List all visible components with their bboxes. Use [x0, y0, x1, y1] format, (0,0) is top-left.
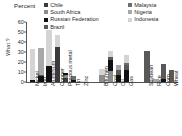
legend-label: Chile — [50, 2, 63, 9]
x-tick-label: Soybean — [148, 65, 154, 86]
y-tick-mark — [24, 62, 26, 63]
legend-swatch-icon — [44, 10, 48, 14]
legend-swatch-icon — [128, 10, 132, 14]
x-tick-label: Tin — [75, 79, 81, 86]
y-tick-mark — [24, 52, 26, 53]
plot-area: 0102030405060 — [26, 22, 178, 83]
x-tick-label: Gas — [128, 76, 134, 86]
x-tick-label: Rice — [156, 75, 162, 86]
legend-item[interactable]: Nigeria — [128, 9, 158, 16]
x-axis-labels: NickelIronAluminiumCopperPrecious metalT… — [26, 84, 178, 134]
x-tick-label: Bitumen — [103, 66, 109, 86]
legend-swatch-icon — [128, 3, 132, 7]
x-tick-label: Precious metal — [67, 50, 73, 86]
chart-figure: What ? Percent ChileSouth AfricaRussian … — [0, 0, 182, 136]
x-tick-label: Coal — [112, 75, 118, 86]
legend-item[interactable]: Chile — [44, 2, 99, 9]
legend-label: Malaysia — [134, 2, 156, 9]
y-tick-mark — [24, 42, 26, 43]
x-tick-label: Copper — [59, 68, 65, 86]
x-tick-label: Nickel — [34, 71, 40, 86]
y-tick-mark — [24, 82, 26, 83]
percent-label: Percent — [14, 2, 35, 9]
bar-segment — [55, 35, 60, 47]
y-tick-mark — [24, 22, 26, 23]
x-tick-label: Aluminium — [50, 61, 56, 86]
x-tick-label: Iron — [42, 77, 48, 86]
x-tick-label: Zinc — [83, 76, 89, 86]
legend-column-right: MalaysiaNigeriaIndonesia — [128, 2, 158, 24]
legend-swatch-icon — [44, 3, 48, 7]
x-tick-label: Wheat — [173, 70, 179, 86]
legend-item[interactable]: Malaysia — [128, 2, 158, 9]
y-tick-mark — [24, 32, 26, 33]
y-axis-title: What ? — [5, 28, 11, 66]
legend-item[interactable]: South Africa — [44, 9, 99, 16]
x-tick-label: Oil — [120, 79, 126, 86]
x-tick-label: Corn — [165, 74, 171, 86]
y-tick-mark — [24, 72, 26, 73]
legend-label: Nigeria — [134, 9, 152, 16]
bar-segment — [124, 55, 129, 63]
legend-label: South Africa — [50, 9, 80, 16]
